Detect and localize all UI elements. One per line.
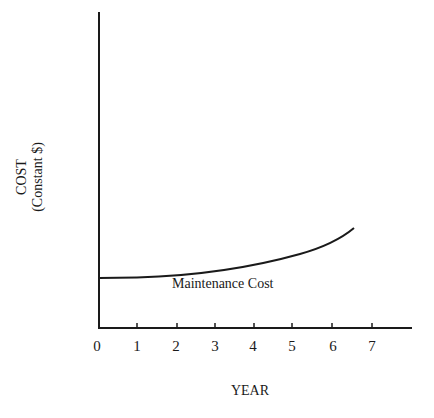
x-tick-label: 0: [87, 338, 107, 355]
x-axis-title: YEAR: [200, 383, 300, 399]
x-tick-label: 3: [205, 338, 225, 355]
x-tick-label: 6: [323, 338, 343, 355]
x-tick-label: 1: [127, 338, 147, 355]
maintenance-cost-curve: [99, 228, 354, 278]
series-label-maintenance-cost: Maintenance Cost: [172, 276, 273, 292]
x-tick-label: 2: [166, 338, 186, 355]
x-tick-label: 7: [362, 338, 382, 355]
y-axis-title: COST (Constant $): [14, 122, 46, 232]
x-tick-label: 5: [282, 338, 302, 355]
chart-canvas: [0, 0, 434, 418]
x-tick-label: 4: [243, 338, 263, 355]
y-axis-title-sub: (Constant $): [30, 122, 46, 232]
y-axis-title-main: COST: [14, 122, 30, 232]
